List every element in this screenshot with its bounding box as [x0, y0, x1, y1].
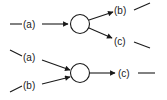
bottom-input-a-arrow-icon [42, 60, 70, 70]
flow-diagram: (a) (b) (c) (a) (b) (c) [0, 0, 167, 100]
top-output-c-label: (c) [114, 36, 126, 47]
bottom-input-b-label: (b) [23, 80, 35, 91]
bottom-input-b-line-left [10, 86, 22, 92]
bottom-input-a-label: (a) [23, 52, 35, 63]
top-output-c-arrow-icon [89, 28, 112, 38]
top-split-node [71, 15, 90, 34]
top-output-b-arrow-icon [89, 12, 113, 20]
split-diagram: (a) (b) (c) [10, 3, 150, 48]
top-output-b-label: (b) [114, 5, 126, 16]
merge-diagram: (a) (b) (c) [10, 50, 155, 92]
top-output-b-line-right [134, 3, 150, 10]
bottom-input-b-arrow-icon [42, 77, 70, 84]
bottom-input-a-line-left [10, 50, 22, 56]
bottom-output-c-label: (c) [118, 68, 130, 79]
top-input-a-label: (a) [23, 19, 35, 30]
bottom-merge-node [71, 64, 90, 83]
top-output-c-line-right [134, 42, 150, 48]
